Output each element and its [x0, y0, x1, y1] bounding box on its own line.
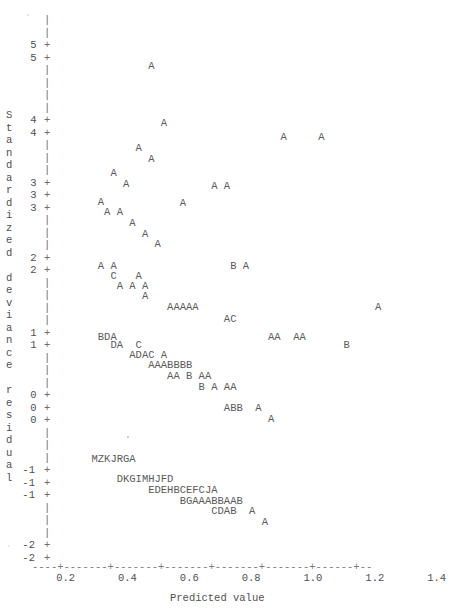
x-axis-tick-label: 0.4 [118, 572, 137, 585]
y-axis-label-char: r [6, 384, 12, 397]
y-axis-tick-label: 1 [30, 327, 36, 340]
y-axis-label-char: e [6, 284, 12, 297]
x-axis-title: Predicted value [170, 592, 265, 605]
y-axis-bar: | [44, 439, 50, 452]
y-axis-label-char: d [6, 434, 12, 447]
x-axis-tick-label: 1.2 [365, 572, 384, 585]
y-axis-tick-label: 2 [30, 264, 36, 277]
y-axis-tick: + [44, 202, 50, 215]
y-axis-bar: | [44, 377, 50, 390]
y-axis-bar: | [44, 89, 50, 102]
y-axis-bar: | [44, 514, 50, 527]
y-axis-bar: | [44, 102, 50, 115]
y-axis-bar: | [44, 277, 50, 290]
data-row: A [60, 413, 274, 426]
y-axis-tick: + [44, 114, 50, 127]
y-axis-label-char: i [6, 209, 12, 222]
y-axis-bar: | [44, 314, 50, 327]
y-axis-tick-label: 4 [30, 114, 36, 127]
y-axis-label-char: i [6, 422, 12, 435]
y-axis-tick-label: 3 [30, 177, 36, 190]
y-axis-tick: + [44, 189, 50, 202]
y-axis-tick-label: 0 [30, 414, 36, 427]
y-axis-tick: + [44, 414, 50, 427]
data-row: AC [60, 313, 236, 326]
x-axis-tick-label: 1.4 [427, 572, 446, 585]
y-axis-bar: | [44, 214, 50, 227]
y-axis-label-char: d [6, 197, 12, 210]
y-axis-tick: + [44, 127, 50, 140]
data-row: A A [60, 180, 230, 193]
y-axis-bar: | [44, 289, 50, 302]
data-row: A [60, 516, 268, 529]
y-axis-label-char: v [6, 297, 12, 310]
y-axis-label-char: e [6, 397, 12, 410]
y-axis-tick-label: 5 [30, 52, 36, 65]
y-axis-tick: + [44, 327, 50, 340]
y-axis-bar: | [44, 227, 50, 240]
ascii-scatter-plot: ||5+5+||||4+4+|||3+3+3+|||2+2+||||1+1+||… [0, 0, 456, 609]
y-axis-tick: + [44, 252, 50, 265]
y-axis-tick-label: 3 [30, 189, 36, 202]
y-axis-bar: | [44, 427, 50, 440]
y-axis-label-char: z [6, 222, 12, 235]
y-axis-tick: + [44, 52, 50, 65]
y-axis-label-char: t [6, 122, 12, 135]
data-row: MZKJRGA [60, 453, 136, 466]
y-axis-tick: + [44, 464, 50, 477]
y-axis-label-char: a [6, 322, 12, 335]
data-row: A [60, 238, 161, 251]
data-row: A [60, 117, 167, 130]
data-row: A [60, 60, 155, 73]
y-axis-tick: + [44, 489, 50, 502]
x-axis-tick-label: 0.6 [180, 572, 199, 585]
y-axis-tick: + [44, 477, 50, 490]
y-axis-bar: | [44, 364, 50, 377]
y-axis-label-char: d [6, 272, 12, 285]
y-axis-tick-label: -1 [22, 464, 35, 477]
data-row: A [60, 153, 155, 166]
y-axis-tick-label: -1 [22, 489, 35, 502]
y-axis-label-char: c [6, 347, 12, 360]
y-axis-label-char: e [6, 359, 12, 372]
y-axis-tick-label: 3 [30, 202, 36, 215]
y-axis-label-char: l [6, 472, 12, 485]
y-axis-tick-label: -1 [22, 477, 35, 490]
y-axis-bar: | [44, 64, 50, 77]
y-axis-label-char: n [6, 334, 12, 347]
y-axis-tick: + [44, 39, 50, 52]
y-axis-label-char: a [6, 172, 12, 185]
y-axis-bar: | [44, 164, 50, 177]
y-axis-bar: | [44, 452, 50, 465]
y-axis-bar: | [44, 152, 50, 165]
y-axis-label-char: d [6, 247, 12, 260]
y-axis-label-char: n [6, 147, 12, 160]
y-axis-label-char: i [6, 309, 12, 322]
y-axis-label-char: a [6, 459, 12, 472]
y-axis-label-char: u [6, 447, 12, 460]
scan-speck [127, 436, 129, 438]
y-axis-bar: | [44, 27, 50, 40]
y-axis-label-char: d [6, 159, 12, 172]
x-axis-tick-label: 0.2 [56, 572, 75, 585]
y-axis-bar: | [44, 527, 50, 540]
data-row: B A AA [60, 381, 236, 394]
y-axis-tick-label: -2 [22, 539, 35, 552]
y-axis-label-char: s [6, 409, 12, 422]
y-axis-bar: | [44, 77, 50, 90]
y-axis-tick-label: 0 [30, 389, 36, 402]
y-axis-tick-label: 4 [30, 127, 36, 140]
y-axis-bar: | [44, 302, 50, 315]
data-row: AAAAA A [60, 301, 381, 314]
scan-speck [27, 14, 29, 16]
scan-speck [8, 545, 10, 547]
x-axis-tick-label: 1.0 [304, 572, 323, 585]
y-axis-tick-label: 0 [30, 402, 36, 415]
y-axis-bar: | [44, 14, 50, 27]
y-axis-label-char: a [6, 134, 12, 147]
y-axis-bar: | [44, 239, 50, 252]
y-axis-tick-label: 5 [30, 39, 36, 52]
y-axis-tick: + [44, 264, 50, 277]
x-axis-tick-label: 0.8 [242, 572, 261, 585]
y-axis-tick-label: 2 [30, 252, 36, 265]
